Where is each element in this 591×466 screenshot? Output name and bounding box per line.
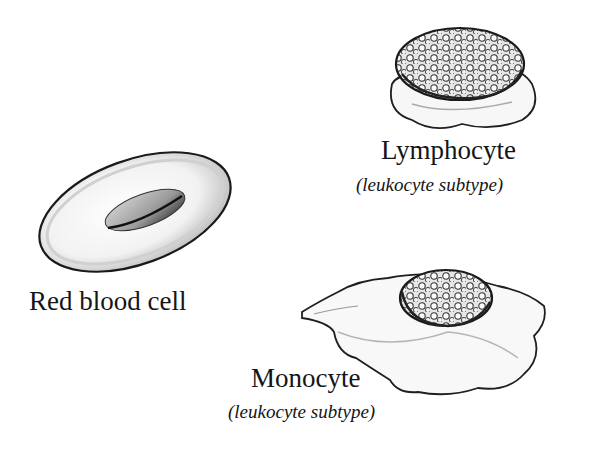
red-blood-cell-illustration (30, 150, 240, 275)
label-lymphocyte: Lymphocyte (381, 137, 516, 164)
label-monocyte: Monocyte (251, 365, 360, 392)
lymphocyte-illustration (382, 24, 544, 136)
subtitle-lymphocyte: (leukocyte subtype) (356, 175, 503, 194)
label-red-blood-cell: Red blood cell (29, 288, 186, 315)
subtitle-monocyte: (leukocyte subtype) (228, 402, 375, 421)
